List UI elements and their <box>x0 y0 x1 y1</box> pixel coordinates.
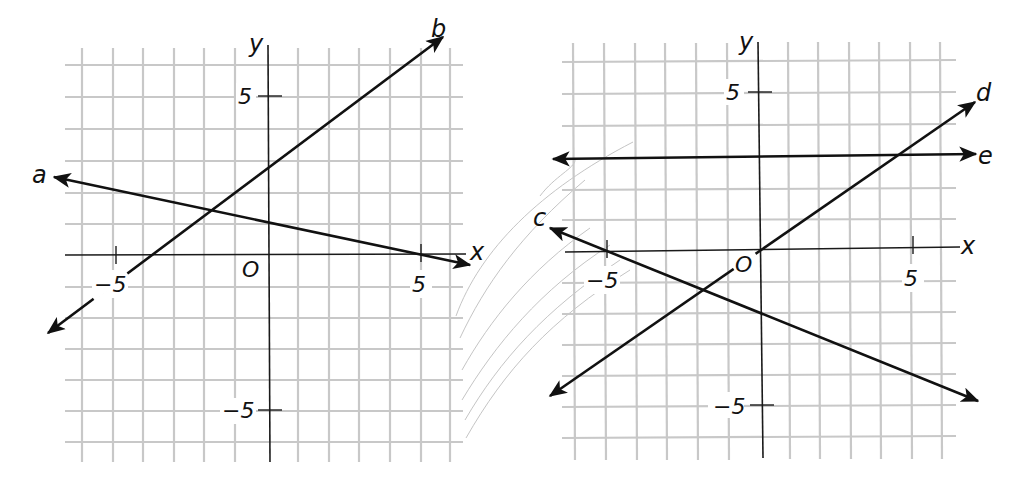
line-d-label: d <box>976 79 992 107</box>
coordinate-graphs-figure: y x O −5 5 5 −5 a b <box>0 0 1014 479</box>
right-y-tick-neg5: −5 <box>713 394 745 419</box>
right-y-tick-5: 5 <box>726 80 740 105</box>
left-x-axis <box>65 254 466 255</box>
left-y-axis <box>268 45 270 462</box>
left-y-tick-5: 5 <box>238 84 252 109</box>
right-origin-label: O <box>735 252 752 277</box>
line-e <box>553 154 976 159</box>
left-y-tick-neg5: −5 <box>222 398 254 423</box>
left-x-tick-5: 5 <box>412 272 426 297</box>
right-y-axis-label: y <box>738 28 754 56</box>
right-graph: y x O −5 5 5 −5 c d e <box>533 28 993 460</box>
right-x-axis-label: x <box>960 232 976 260</box>
right-x-tick-5: 5 <box>904 266 918 291</box>
left-x-axis-label: x <box>469 238 485 266</box>
right-x-tick-neg5: −5 <box>586 268 618 293</box>
left-y-axis-label: y <box>248 30 264 58</box>
left-origin-label: O <box>242 257 259 282</box>
line-e-label: e <box>978 142 993 170</box>
left-x-tick-neg5: −5 <box>94 272 126 297</box>
left-graph: y x O −5 5 5 −5 a b <box>32 15 485 462</box>
line-a-label: a <box>32 161 47 189</box>
line-b-label: b <box>431 15 446 43</box>
line-c-label: c <box>533 204 546 232</box>
